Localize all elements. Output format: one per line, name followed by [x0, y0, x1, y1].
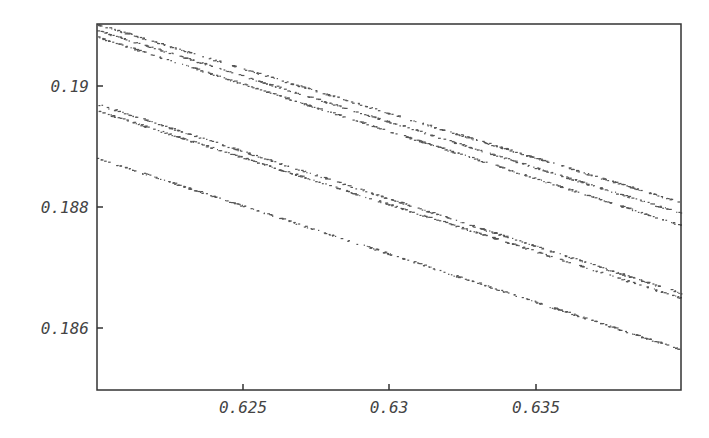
y-tick-label: 0.186	[41, 319, 89, 338]
y-axis: 0.19 0.188 0.186	[41, 77, 103, 338]
scatter-plot: 0.19 0.188 0.186 0.625 0.63 0.635	[0, 0, 709, 438]
x-tick-label: 0.63	[370, 398, 409, 417]
x-tick-label: 0.625	[219, 398, 267, 417]
plot-frame	[97, 24, 681, 390]
x-axis: 0.625 0.63 0.635	[219, 384, 560, 417]
y-tick-label: 0.188	[41, 198, 89, 217]
y-tick-label: 0.19	[50, 77, 89, 96]
x-tick-label: 0.635	[512, 398, 560, 417]
data-points	[97, 24, 683, 350]
